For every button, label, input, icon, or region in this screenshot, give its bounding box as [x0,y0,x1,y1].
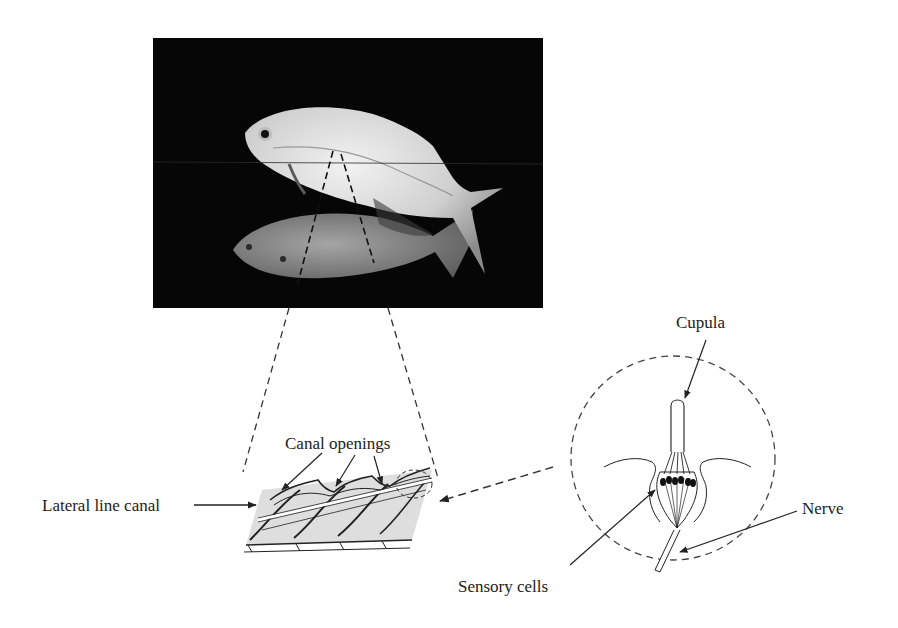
zoom-guide-right [388,308,438,478]
magnify-arrow [440,467,553,501]
label-nerve: Nerve [802,500,844,517]
sensory-cells-arrow [570,490,655,565]
label-cupula: Cupula [676,314,725,331]
lateral-line-diagram: Lateral line canal Canal openings Cupula… [0,0,898,628]
diagram-lines [0,0,898,628]
label-canal-openings: Canal openings [285,435,390,452]
label-lateral-line-canal: Lateral line canal [42,497,160,514]
label-sensory-cells: Sensory cells [458,578,548,595]
cupula-arrow [685,340,706,398]
canal-section-illustration [244,468,432,552]
nerve-arrow [680,511,797,552]
neuromast-illustration [604,400,751,572]
zoom-guide-left [243,308,289,472]
